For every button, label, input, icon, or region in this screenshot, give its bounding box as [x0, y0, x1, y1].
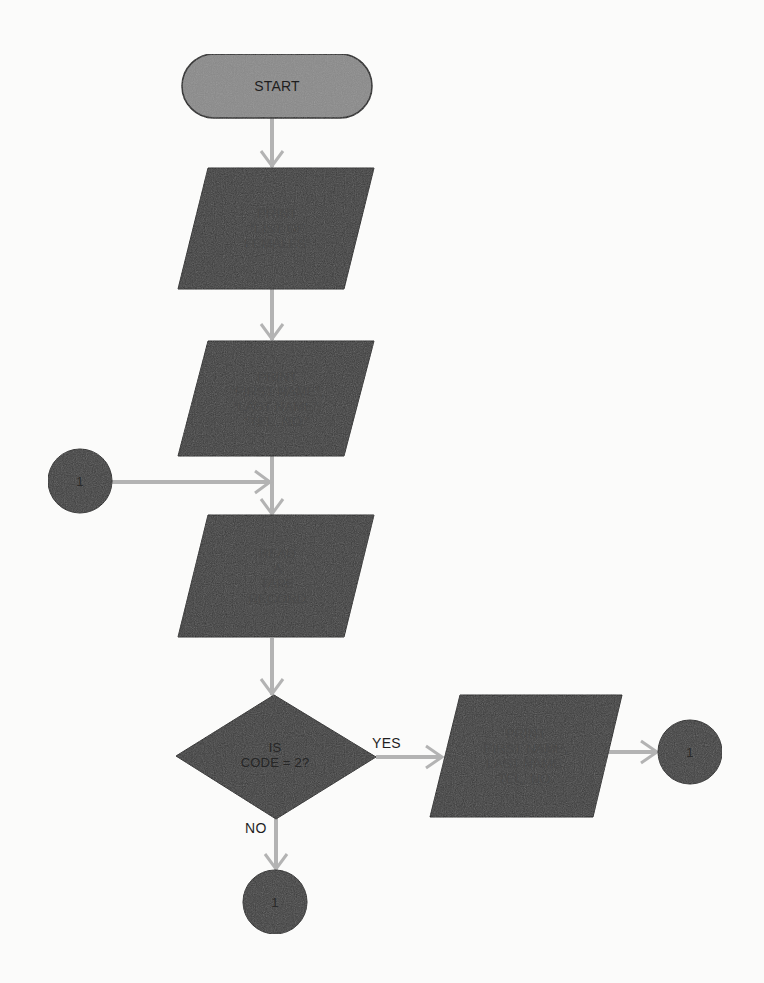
connector-left	[48, 449, 112, 513]
print-headers-node	[178, 341, 374, 456]
connector-right	[658, 720, 722, 784]
print-title-node	[178, 168, 374, 289]
decision-node	[176, 695, 376, 819]
print-record-node	[430, 695, 622, 817]
flowchart: START PRINT “LIST OF FEMALES” PRINT “FIR…	[0, 0, 764, 983]
yes-branch-label: YES	[372, 735, 401, 751]
flowchart-canvas	[0, 0, 764, 983]
connector-bottom	[243, 870, 307, 934]
read-record-node	[178, 515, 374, 637]
start-terminator	[182, 54, 372, 118]
no-branch-label: NO	[245, 820, 267, 836]
